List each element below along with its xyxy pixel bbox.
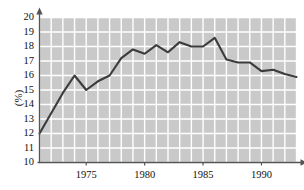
x-tick-label: 1975	[66, 169, 106, 180]
line-chart: (%) 2019181716151413121110 1975198019851…	[0, 0, 304, 190]
x-tick-label: 1980	[125, 169, 165, 180]
x-tick-label: 1985	[183, 169, 223, 180]
x-tick-label: 1990	[241, 169, 281, 180]
x-axis-tick-labels: 1975198019851990	[0, 0, 304, 190]
